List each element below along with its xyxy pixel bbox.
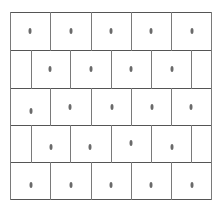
vertical-grid-line [131, 88, 132, 126]
cell-dot-marker [50, 144, 53, 150]
cell-dot-marker [29, 28, 32, 34]
cell-dot-marker [191, 28, 194, 34]
vertical-grid-line [70, 125, 71, 163]
vertical-grid-line [10, 125, 11, 163]
vertical-grid-line [211, 12, 212, 51]
cell-dot-marker [151, 104, 154, 110]
cell-dot-marker [30, 108, 33, 114]
vertical-grid-line [211, 88, 212, 126]
horizontal-grid-line [10, 12, 212, 13]
vertical-grid-line [91, 162, 92, 200]
vertical-grid-line [111, 125, 112, 163]
cell-dot-marker [171, 66, 174, 72]
brick-grid-diagram [0, 0, 221, 211]
cell-dot-marker [191, 182, 194, 188]
cell-dot-marker [70, 28, 73, 34]
vertical-grid-line [10, 12, 11, 51]
vertical-grid-line [70, 50, 71, 89]
vertical-grid-line [91, 88, 92, 126]
vertical-grid-line [191, 50, 192, 89]
vertical-grid-line [211, 125, 212, 163]
cell-dot-marker [190, 104, 193, 110]
vertical-grid-line [50, 162, 51, 200]
vertical-grid-line [211, 50, 212, 89]
vertical-grid-line [111, 50, 112, 89]
vertical-grid-line [131, 12, 132, 51]
vertical-grid-line [171, 12, 172, 51]
cell-dot-marker [150, 182, 153, 188]
cell-dot-marker [70, 182, 73, 188]
vertical-grid-line [211, 162, 212, 200]
vertical-grid-line [171, 162, 172, 200]
vertical-grid-line [91, 12, 92, 51]
cell-dot-marker [110, 182, 113, 188]
vertical-grid-line [10, 88, 11, 126]
vertical-grid-line [191, 125, 192, 163]
vertical-grid-line [10, 162, 11, 200]
vertical-grid-line [151, 50, 152, 89]
cell-dot-marker [30, 182, 33, 188]
cell-dot-marker [150, 28, 153, 34]
cell-dot-marker [130, 66, 133, 72]
cell-dot-marker [90, 66, 93, 72]
vertical-grid-line [131, 162, 132, 200]
cell-dot-marker [69, 104, 72, 110]
cell-dot-marker [171, 144, 174, 150]
cell-dot-marker [130, 140, 133, 146]
vertical-grid-line [31, 50, 32, 89]
vertical-grid-line [50, 12, 51, 51]
vertical-grid-line [151, 125, 152, 163]
horizontal-grid-line [10, 199, 212, 200]
vertical-grid-line [31, 125, 32, 163]
vertical-grid-line [50, 88, 51, 126]
cell-dot-marker [111, 104, 114, 110]
cell-dot-marker [110, 28, 113, 34]
cell-dot-marker [49, 66, 52, 72]
vertical-grid-line [171, 88, 172, 126]
cell-dot-marker [89, 144, 92, 150]
vertical-grid-line [10, 50, 11, 89]
